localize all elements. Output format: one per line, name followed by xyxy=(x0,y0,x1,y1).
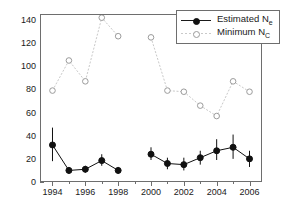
legend-swatch-estimated-icon xyxy=(181,15,211,26)
y-tick-mark xyxy=(40,182,44,183)
x-tick-label: 2006 xyxy=(239,188,259,197)
data-point-filled xyxy=(214,148,220,154)
data-point-filled xyxy=(197,155,203,161)
x-tick-mark-minor xyxy=(200,182,201,184)
y-tick-label: 140 xyxy=(21,16,36,25)
data-point-filled xyxy=(230,144,236,150)
data-point-open xyxy=(181,89,187,95)
data-point-filled xyxy=(66,167,72,173)
data-point-open xyxy=(50,88,56,94)
legend-label-minimum: Minimum NC xyxy=(217,26,270,41)
data-point-filled xyxy=(247,156,253,162)
x-tick-mark xyxy=(184,182,185,186)
data-point-filled xyxy=(148,151,154,157)
x-tick-label: 2002 xyxy=(174,188,194,197)
data-point-open xyxy=(214,113,220,119)
data-point-filled xyxy=(82,166,88,172)
x-axis-labels: 1994199619982000200220042006 xyxy=(0,188,296,202)
data-point-open xyxy=(197,103,203,109)
data-point-filled xyxy=(181,162,187,168)
legend-item-minimum: Minimum NC xyxy=(181,27,273,40)
data-point-open xyxy=(230,79,236,85)
y-tick-label: 100 xyxy=(21,62,36,71)
x-tick-mark-minor xyxy=(233,182,234,184)
y-tick-label: 80 xyxy=(26,85,36,94)
y-tick-label: 20 xyxy=(26,154,36,163)
x-tick-mark xyxy=(151,182,152,186)
y-tick-label: 40 xyxy=(26,131,36,140)
x-tick-label: 1994 xyxy=(42,188,62,197)
x-tick-mark-minor xyxy=(102,182,103,184)
y-tick-label: 120 xyxy=(21,39,36,48)
x-tick-mark-minor xyxy=(69,182,70,184)
data-point-filled xyxy=(49,142,55,148)
data-point-filled xyxy=(99,158,105,164)
legend-item-estimated: Estimated Ne xyxy=(181,14,273,27)
data-point-open xyxy=(66,58,72,64)
x-tick-label: 1996 xyxy=(75,188,95,197)
data-point-open xyxy=(148,35,154,41)
y-tick-label: 60 xyxy=(26,108,36,117)
x-tick-mark xyxy=(118,182,119,186)
data-point-open xyxy=(83,79,89,85)
data-point-filled xyxy=(164,160,170,166)
x-tick-mark xyxy=(85,182,86,186)
data-point-open xyxy=(165,88,171,94)
data-point-open xyxy=(115,33,121,39)
x-tick-mark xyxy=(217,182,218,186)
data-point-open xyxy=(247,89,253,95)
x-tick-mark xyxy=(250,182,251,186)
x-tick-mark xyxy=(52,182,53,186)
x-tick-label: 2000 xyxy=(141,188,161,197)
x-tick-label: 1998 xyxy=(108,188,128,197)
x-tick-mark-minor xyxy=(135,182,136,184)
legend-swatch-minimum-icon xyxy=(181,28,211,39)
chart-figure: 020406080100120140 199419961998200020022… xyxy=(0,0,296,211)
data-point-filled xyxy=(115,167,121,173)
y-axis-labels: 020406080100120140 xyxy=(0,0,36,211)
y-tick-label: 0 xyxy=(31,178,36,187)
data-point-open xyxy=(99,15,105,20)
x-tick-mark-minor xyxy=(167,182,168,184)
chart-legend: Estimated Ne Minimum NC xyxy=(176,10,280,44)
x-tick-label: 2004 xyxy=(207,188,227,197)
series-estimated-ne xyxy=(49,128,252,174)
